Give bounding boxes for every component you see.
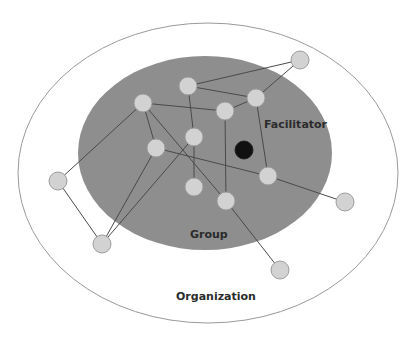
facilitator-node (235, 141, 253, 159)
member-node-C (247, 89, 265, 107)
member-node-J (185, 178, 203, 196)
member-node-E (216, 102, 234, 120)
member-node-F (185, 128, 203, 146)
member-node-A (291, 51, 309, 69)
member-node-N (271, 261, 289, 279)
member-node-G (147, 139, 165, 157)
group-facilitation-diagram: Facilitator Group Organization (0, 0, 414, 340)
member-node-M (93, 235, 111, 253)
member-node-K (217, 192, 235, 210)
member-node-H (49, 172, 67, 190)
facilitator-label: Facilitator (264, 118, 328, 131)
member-node-D (134, 94, 152, 112)
member-node-B (179, 77, 197, 95)
group-ellipse (78, 56, 332, 250)
group-label: Group (190, 228, 228, 241)
member-node-L (336, 193, 354, 211)
member-node-I (259, 167, 277, 185)
organization-label: Organization (176, 290, 256, 303)
